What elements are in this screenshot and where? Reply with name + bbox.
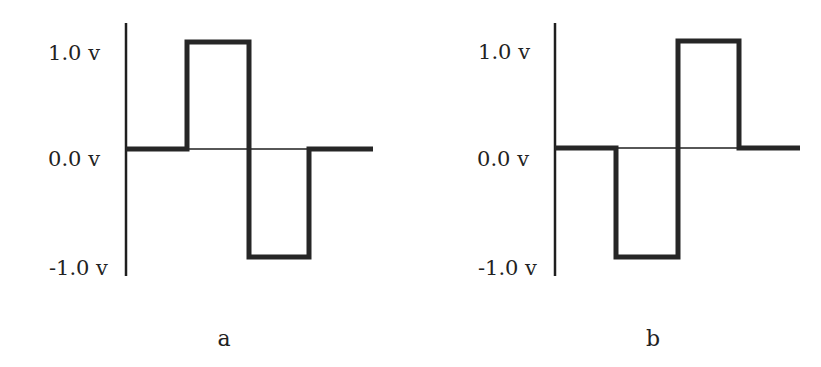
waveform-a <box>126 42 373 257</box>
y-tick-label-bottom: -1.0 v <box>478 256 537 280</box>
waveform-figure: 1.0 v 0.0 v -1.0 v a 1.0 v 0.0 v -1.0 v … <box>0 0 821 367</box>
waveform-b <box>555 41 800 257</box>
y-tick-label-top: 1.0 v <box>48 41 100 65</box>
y-tick-label-zero: 0.0 v <box>477 147 529 171</box>
caption-b: b <box>646 326 660 351</box>
y-tick-label-zero: 0.0 v <box>48 147 100 171</box>
caption-a: a <box>217 326 230 351</box>
y-tick-label-bottom: -1.0 v <box>49 256 108 280</box>
y-tick-label-top: 1.0 v <box>478 40 530 64</box>
panel-a: 1.0 v 0.0 v -1.0 v a <box>48 23 373 351</box>
panel-b: 1.0 v 0.0 v -1.0 v b <box>477 23 800 351</box>
